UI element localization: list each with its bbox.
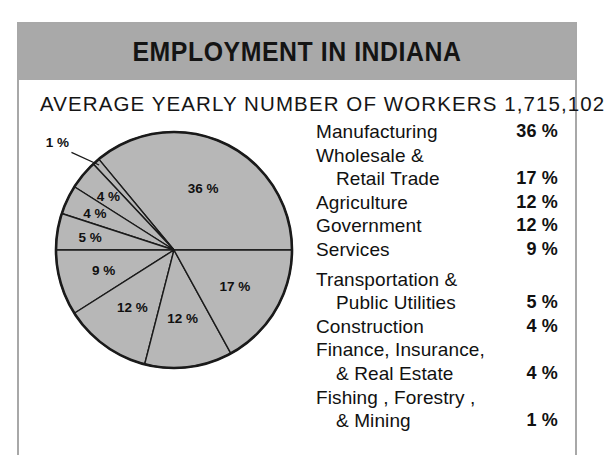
legend-label: Wholesale & (316, 144, 424, 168)
legend-percent: 36 % (516, 120, 558, 144)
legend-label: & Mining (336, 409, 411, 433)
legend-row: Wholesale & (316, 144, 568, 168)
legend-row: & Real Estate4 % (316, 362, 568, 386)
legend-label: Government (316, 214, 422, 238)
legend-row: Retail Trade17 % (316, 167, 568, 191)
legend-row: Finance, Insurance, (316, 338, 568, 362)
legend-label: & Real Estate (336, 362, 453, 386)
pie-slice-label: 17 % (220, 279, 251, 294)
pie-slice-label: 4 % (97, 189, 120, 204)
legend-row: Construction4 % (316, 315, 568, 339)
legend-label: Finance, Insurance, (316, 338, 485, 362)
legend-percent: 17 % (516, 167, 558, 191)
legend-label: Fishing , Forestry , (316, 386, 475, 410)
legend-row: Services9 % (316, 238, 568, 262)
legend-label: Manufacturing (316, 120, 438, 144)
legend-label: Retail Trade (336, 167, 440, 191)
pie-leader-line (71, 152, 99, 165)
legend-row: Agriculture12 % (316, 191, 568, 215)
legend-label: Construction (316, 315, 424, 339)
pie-chart-svg: 36 %1 %4 %4 %5 %9 %12 %12 %17 % (19, 128, 319, 448)
pie-slice-label: 4 % (83, 206, 106, 221)
legend-row: Public Utilities5 % (316, 291, 568, 315)
legend-percent: 1 % (526, 409, 558, 433)
content-area: AVERAGE YEARLY NUMBER OF WORKERS 1,715,1… (19, 80, 575, 455)
legend-percent: 5 % (526, 291, 558, 315)
legend-percent: 12 % (516, 191, 558, 215)
legend-row: Manufacturing36 % (316, 120, 568, 144)
legend-row: Transportation & (316, 268, 568, 292)
legend-percent: 12 % (516, 214, 558, 238)
pie-slice-label: 12 % (167, 311, 198, 326)
pie-chart: 36 %1 %4 %4 %5 %9 %12 %12 %17 % (19, 128, 319, 448)
pie-slice-label: 5 % (78, 230, 101, 245)
legend-row: Government12 % (316, 214, 568, 238)
legend-label: Public Utilities (336, 291, 456, 315)
legend: Manufacturing36 %Wholesale &Retail Trade… (316, 120, 568, 433)
legend-label: Services (316, 238, 390, 262)
pie-slice-label: 36 % (188, 181, 219, 196)
pie-slice-label: 12 % (117, 300, 148, 315)
legend-percent: 9 % (526, 238, 558, 262)
legend-label: Agriculture (316, 191, 408, 215)
pie-slice-label: 1 % (46, 135, 69, 150)
legend-label: Transportation & (316, 268, 457, 292)
legend-row: Fishing , Forestry , (316, 386, 568, 410)
legend-row: & Mining1 % (316, 409, 568, 433)
page-title: EMPLOYMENT IN INDIANA (41, 24, 553, 80)
subtitle: AVERAGE YEARLY NUMBER OF WORKERS 1,715,1… (40, 92, 605, 116)
pie-slice-label: 9 % (92, 263, 115, 278)
legend-percent: 4 % (526, 362, 558, 386)
legend-percent: 4 % (526, 315, 558, 339)
